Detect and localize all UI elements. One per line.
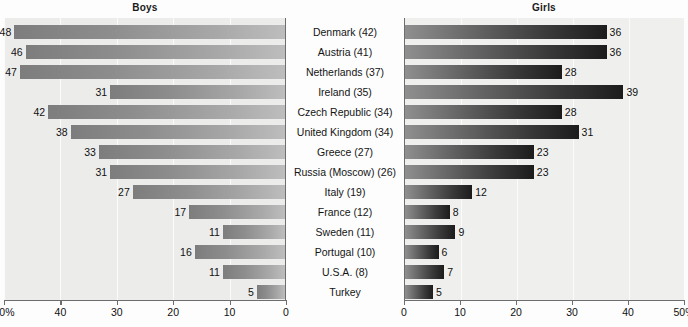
- bar-row-boys: 5: [4, 282, 285, 302]
- bar-value-label-girls: 7: [447, 264, 453, 280]
- bar-row-girls: 23: [405, 142, 684, 162]
- axis-tick-label: 0: [384, 306, 424, 318]
- category-label: Russia (Moscow) (26): [288, 162, 402, 182]
- bar-value-label-girls: 9: [458, 224, 464, 240]
- axis-tick: [572, 300, 573, 305]
- category-label: United Kingdom (34): [288, 122, 402, 142]
- bar-row-girls: 31: [405, 122, 684, 142]
- bar-value-label-boys: 48: [0, 24, 11, 40]
- axis-tick: [173, 300, 174, 305]
- category-label: Austria (41): [288, 42, 402, 62]
- axis-tick-label: 20: [496, 306, 536, 318]
- panel-title-boys: Boys: [4, 2, 286, 13]
- category-label: Sweden (11): [288, 222, 402, 242]
- bar-row-girls: 39: [405, 82, 684, 102]
- bar-value-label-girls: 31: [582, 124, 594, 140]
- axis-tick-label: 10: [440, 306, 480, 318]
- bar-boys: [99, 145, 285, 159]
- bar-girls: [405, 205, 450, 219]
- category-label: Italy (19): [288, 182, 402, 202]
- bar-value-label-girls: 8: [453, 204, 459, 220]
- bar-row-girls: 23: [405, 162, 684, 182]
- bar-value-label-boys: 11: [209, 264, 220, 280]
- bar-boys: [223, 225, 285, 239]
- bar-value-label-boys: 47: [5, 64, 17, 80]
- axis-line-girls: [404, 300, 685, 301]
- bar-boys: [195, 245, 285, 259]
- axis-tick: [60, 300, 61, 305]
- bar-girls: [405, 285, 433, 299]
- bar-value-label-boys: 31: [95, 84, 107, 100]
- axis-tick: [230, 300, 231, 305]
- bar-value-label-boys: 31: [95, 164, 107, 180]
- bar-row-boys: 17: [4, 202, 285, 222]
- bar-value-label-girls: 36: [610, 24, 622, 40]
- plot-area-boys: 484647314238333127171116115: [4, 18, 286, 300]
- bar-value-label-girls: 12: [475, 184, 487, 200]
- bar-value-label-boys: 17: [174, 204, 186, 220]
- axis-tick-label: 50%: [664, 306, 688, 318]
- bar-row-girls: 28: [405, 62, 684, 82]
- bar-value-label-girls: 23: [537, 144, 549, 160]
- bar-girls: [405, 105, 562, 119]
- axis-tick-label: 40: [608, 306, 648, 318]
- bar-girls: [405, 265, 444, 279]
- bar-value-label-boys: 42: [33, 104, 45, 120]
- bar-value-label-girls: 23: [537, 164, 549, 180]
- axis-tick-label: 30: [552, 306, 592, 318]
- bar-girls: [405, 145, 534, 159]
- axis-tick: [404, 300, 405, 305]
- category-label: Netherlands (37): [288, 62, 402, 82]
- bar-boys: [48, 105, 285, 119]
- bar-girls: [405, 45, 607, 59]
- bar-boys: [71, 125, 285, 139]
- axis-tick-label: 0: [266, 306, 306, 318]
- bar-row-boys: 16: [4, 242, 285, 262]
- category-label: Portugal (10): [288, 242, 402, 262]
- bar-boys: [26, 45, 285, 59]
- category-label: U.S.A. (8): [288, 262, 402, 282]
- axis-tick: [460, 300, 461, 305]
- bar-row-girls: 7: [405, 262, 684, 282]
- plot-area-girls: 36362839283123231289675: [404, 18, 684, 300]
- axis-tick-label: 30: [97, 306, 137, 318]
- bar-boys: [223, 265, 285, 279]
- axis-tick-label: 50%: [0, 306, 24, 318]
- bar-row-boys: 31: [4, 82, 285, 102]
- bar-value-label-boys: 27: [118, 184, 130, 200]
- bar-row-girls: 36: [405, 42, 684, 62]
- bar-row-girls: 9: [405, 222, 684, 242]
- bar-boys: [110, 165, 285, 179]
- bar-girls: [405, 85, 623, 99]
- bar-value-label-boys: 16: [180, 244, 192, 260]
- gridline: [685, 18, 686, 300]
- bar-girls: [405, 225, 455, 239]
- category-label: Turkey: [288, 282, 402, 302]
- bar-row-boys: 48: [4, 22, 285, 42]
- category-label: France (12): [288, 202, 402, 222]
- axis-tick: [684, 300, 685, 305]
- bar-row-girls: 8: [405, 202, 684, 222]
- bar-row-boys: 46: [4, 42, 285, 62]
- axis-line-boys: [4, 300, 287, 301]
- bar-row-boys: 31: [4, 162, 285, 182]
- axis-tick-label: 10: [210, 306, 250, 318]
- bar-value-label-girls: 39: [626, 84, 638, 100]
- bar-row-girls: 36: [405, 22, 684, 42]
- bar-row-girls: 6: [405, 242, 684, 262]
- bar-row-girls: 12: [405, 182, 684, 202]
- axis-tick: [117, 300, 118, 305]
- bar-boys: [14, 25, 285, 39]
- bar-value-label-girls: 36: [610, 44, 622, 60]
- bar-row-boys: 11: [4, 262, 285, 282]
- bar-row-boys: 27: [4, 182, 285, 202]
- category-label: Greece (27): [288, 142, 402, 162]
- bar-value-label-boys: 33: [84, 144, 96, 160]
- bar-girls: [405, 245, 439, 259]
- bar-value-label-boys: 5: [248, 284, 254, 300]
- bar-girls: [405, 185, 472, 199]
- bar-girls: [405, 65, 562, 79]
- panel-title-girls: Girls: [404, 2, 684, 13]
- bar-row-boys: 42: [4, 102, 285, 122]
- bar-boys: [110, 85, 285, 99]
